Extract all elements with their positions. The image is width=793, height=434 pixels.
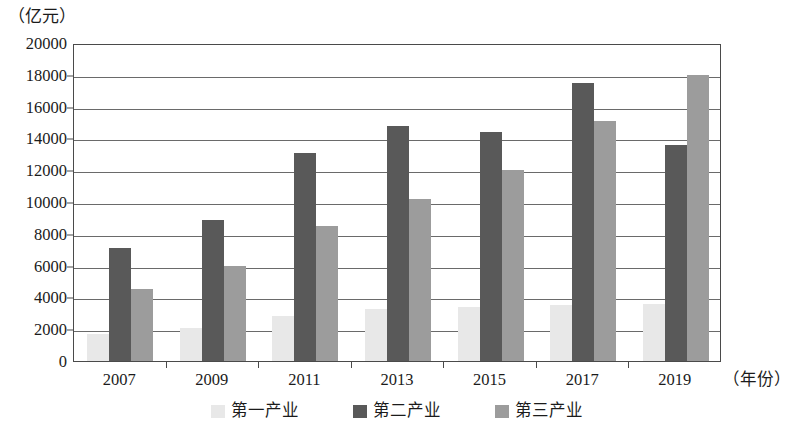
legend-swatch-icon bbox=[211, 405, 225, 418]
y-tick-label: 20000 bbox=[0, 36, 67, 53]
legend-label: 第二产业 bbox=[373, 403, 441, 420]
legend-swatch-icon bbox=[353, 405, 367, 418]
bar bbox=[180, 328, 202, 361]
x-tick-label: 2009 bbox=[195, 372, 228, 389]
bar bbox=[365, 309, 387, 361]
y-tick-label: 10000 bbox=[0, 195, 67, 212]
x-tick-label: 2017 bbox=[566, 372, 599, 389]
bar-chart: （亿元） 02000400060008000100001200014000160… bbox=[0, 0, 793, 434]
legend-item[interactable]: 第一产业 bbox=[211, 403, 299, 420]
y-axis: 0200040006000800010000120001400016000180… bbox=[0, 44, 67, 362]
bar bbox=[294, 153, 316, 361]
legend-label: 第三产业 bbox=[515, 403, 583, 420]
x-tick-label: 2013 bbox=[381, 372, 414, 389]
legend-item[interactable]: 第三产业 bbox=[495, 403, 583, 420]
bar bbox=[387, 126, 409, 361]
plot-area bbox=[73, 44, 721, 362]
bar bbox=[687, 75, 709, 361]
y-tick-label: 12000 bbox=[0, 163, 67, 180]
x-tick-mark bbox=[258, 362, 259, 368]
x-tick-label: 2019 bbox=[658, 372, 691, 389]
y-tick-label: 0 bbox=[0, 354, 67, 371]
x-axis-unit-label: （年份） bbox=[723, 372, 791, 389]
bar bbox=[643, 304, 665, 361]
legend-label: 第一产业 bbox=[231, 403, 299, 420]
x-tick-mark bbox=[166, 362, 167, 368]
x-tick-mark bbox=[351, 362, 352, 368]
y-tick-label: 4000 bbox=[0, 290, 67, 307]
y-tick-label: 16000 bbox=[0, 99, 67, 116]
bar bbox=[409, 199, 431, 361]
y-tick-label: 6000 bbox=[0, 258, 67, 275]
y-tick-label: 2000 bbox=[0, 322, 67, 339]
bar bbox=[665, 145, 687, 361]
bar bbox=[131, 289, 153, 361]
x-tick-label: 2015 bbox=[473, 372, 506, 389]
bar bbox=[224, 266, 246, 361]
legend-swatch-icon bbox=[495, 405, 509, 418]
bar bbox=[109, 248, 131, 361]
bars-layer bbox=[74, 45, 720, 361]
bar bbox=[272, 316, 294, 361]
x-tick-label: 2011 bbox=[288, 372, 320, 389]
x-axis: 2007200920112013201520172019 bbox=[73, 362, 721, 402]
y-axis-unit-label: （亿元） bbox=[8, 2, 76, 27]
x-tick-mark bbox=[536, 362, 537, 368]
bar bbox=[480, 132, 502, 361]
x-tick-label: 2007 bbox=[103, 372, 136, 389]
y-tick-label: 8000 bbox=[0, 227, 67, 244]
bar bbox=[458, 307, 480, 361]
y-tick-label: 14000 bbox=[0, 131, 67, 148]
x-tick-mark bbox=[443, 362, 444, 368]
bar bbox=[202, 220, 224, 362]
bar bbox=[87, 334, 109, 361]
bar bbox=[594, 121, 616, 361]
bar bbox=[502, 170, 524, 361]
x-tick-mark bbox=[628, 362, 629, 368]
legend-item[interactable]: 第二产业 bbox=[353, 403, 441, 420]
bar bbox=[572, 83, 594, 361]
bar bbox=[316, 226, 338, 361]
bar bbox=[550, 305, 572, 361]
y-tick-label: 18000 bbox=[0, 68, 67, 85]
chart-legend: 第一产业第二产业第三产业 bbox=[0, 403, 793, 420]
